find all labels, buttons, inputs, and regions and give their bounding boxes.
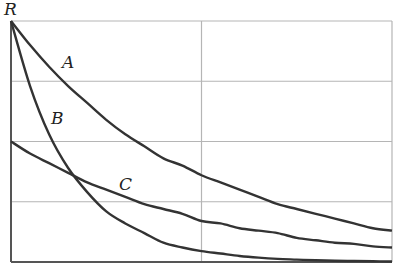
curve-a-label: A [60,52,74,72]
curve-c-label: C [119,174,132,194]
curve-b-label: B [50,108,64,128]
y-axis-label: R [3,0,17,19]
decay-curves-chart: R A B C [0,0,397,275]
